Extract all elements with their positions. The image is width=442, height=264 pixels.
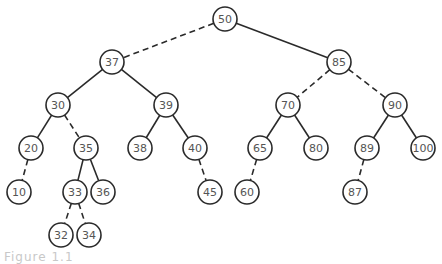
- tree-node-10: 10: [7, 180, 31, 204]
- tree-node-87: 87: [343, 180, 367, 204]
- edge-85-70: [297, 70, 330, 98]
- edge-65-60: [250, 160, 256, 181]
- tree-node-33: 33: [63, 180, 87, 204]
- node-label: 70: [281, 99, 295, 112]
- edge-70-80: [295, 115, 310, 138]
- node-label: 45: [203, 186, 217, 199]
- node-label: 20: [24, 142, 38, 155]
- node-label: 100: [413, 142, 434, 155]
- tree-node-38: 38: [128, 136, 152, 160]
- edge-90-100: [402, 115, 417, 138]
- node-label: 60: [240, 186, 254, 199]
- node-label: 36: [96, 186, 110, 199]
- edge-89-87: [358, 160, 364, 181]
- tree-node-34: 34: [77, 223, 101, 247]
- tree-node-36: 36: [91, 180, 115, 204]
- tree-node-90: 90: [383, 93, 407, 117]
- node-label: 90: [388, 99, 402, 112]
- tree-node-85: 85: [327, 50, 351, 74]
- edge-40-45: [199, 159, 206, 180]
- node-label: 10: [12, 186, 26, 199]
- edge-90-89: [374, 115, 389, 138]
- node-label: 85: [332, 56, 346, 69]
- tree-node-32: 32: [49, 223, 73, 247]
- node-label: 50: [218, 13, 232, 26]
- edge-35-36: [90, 159, 98, 181]
- figure-caption: Figure 1.1: [4, 250, 74, 264]
- tree-node-50: 50: [213, 7, 237, 31]
- edge-39-38: [146, 115, 160, 137]
- tree-node-89: 89: [355, 136, 379, 160]
- tree-node-30: 30: [46, 93, 70, 117]
- edge-30-35: [65, 115, 80, 138]
- edge-50-85: [236, 23, 328, 58]
- node-label: 40: [188, 142, 202, 155]
- node-label: 34: [82, 229, 96, 242]
- tree-node-40: 40: [183, 136, 207, 160]
- edge-37-39: [121, 69, 156, 97]
- edge-37-30: [67, 69, 102, 97]
- edge-20-10: [22, 160, 28, 181]
- tree-node-100: 100: [411, 136, 435, 160]
- node-label: 39: [159, 99, 173, 112]
- node-label: 33: [68, 186, 82, 199]
- node-label: 89: [360, 142, 374, 155]
- edge-33-32: [65, 203, 72, 223]
- edge-70-65: [267, 115, 282, 138]
- edge-39-40: [173, 115, 189, 138]
- node-label: 38: [133, 142, 147, 155]
- edge-50-37: [123, 23, 214, 57]
- node-label: 87: [348, 186, 362, 199]
- edge-35-33: [78, 160, 83, 181]
- node-label: 37: [105, 56, 119, 69]
- node-label: 30: [51, 99, 65, 112]
- tree-node-60: 60: [235, 180, 259, 204]
- tree-node-80: 80: [304, 136, 328, 160]
- tree-node-20: 20: [19, 136, 43, 160]
- node-label: 80: [309, 142, 323, 155]
- tree-node-45: 45: [198, 180, 222, 204]
- edge-33-34: [79, 203, 86, 223]
- node-label: 65: [253, 142, 267, 155]
- tree-nodes: 5037853039709020353840658089100103336456…: [7, 7, 435, 247]
- edge-85-90: [349, 69, 386, 97]
- tree-node-39: 39: [154, 93, 178, 117]
- tree-node-70: 70: [276, 93, 300, 117]
- edge-30-20: [37, 115, 51, 138]
- node-label: 35: [79, 142, 93, 155]
- tree-node-65: 65: [248, 136, 272, 160]
- tree-node-37: 37: [100, 50, 124, 74]
- node-label: 32: [54, 229, 68, 242]
- tree-node-35: 35: [74, 136, 98, 160]
